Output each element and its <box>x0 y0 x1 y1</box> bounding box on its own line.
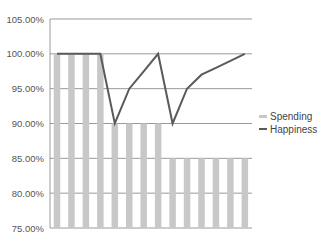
spending-bar <box>242 158 249 228</box>
y-tick-label: 80.00% <box>12 188 45 199</box>
gridlines <box>50 19 252 228</box>
y-axis: 105.00%100.00%95.00%90.00%85.00%80.00%75… <box>6 14 50 234</box>
spending-bar <box>227 158 234 228</box>
spending-bar <box>169 158 176 228</box>
spending-bar <box>140 124 147 229</box>
spending-bar <box>97 54 104 228</box>
spending-bar <box>213 158 220 228</box>
spending-bar <box>68 54 75 228</box>
spending-bar <box>155 124 162 229</box>
y-tick-label: 90.00% <box>12 118 45 129</box>
spending-bars <box>54 54 248 228</box>
y-tick-label: 95.00% <box>12 83 45 94</box>
legend-happiness-label: Happiness <box>270 124 317 135</box>
spending-bar <box>198 158 205 228</box>
spending-bar <box>83 54 90 228</box>
legend-spending-swatch <box>259 115 267 118</box>
spending-bar <box>54 54 61 228</box>
legend-spending-label: Spending <box>270 111 312 122</box>
spending-bar <box>184 158 191 228</box>
y-tick-label: 105.00% <box>6 14 44 25</box>
legend: Spending Happiness <box>259 111 317 135</box>
y-tick-label: 100.00% <box>6 48 44 59</box>
spending-happiness-chart: 105.00%100.00%95.00%90.00%85.00%80.00%75… <box>0 0 320 246</box>
legend-happiness-swatch <box>259 128 267 130</box>
y-tick-label: 75.00% <box>12 223 45 234</box>
spending-bar <box>112 124 119 229</box>
spending-bar <box>126 124 133 229</box>
y-tick-label: 85.00% <box>12 153 45 164</box>
